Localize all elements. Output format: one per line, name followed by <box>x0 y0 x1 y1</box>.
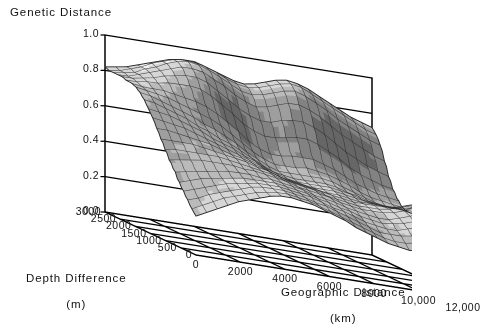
depth-axis-title: Depth Difference (m) <box>4 259 132 323</box>
geographic-axis-tick-12,000: 12,000 <box>443 302 483 314</box>
geographic-axis-tick-8000: 8000 <box>354 288 394 300</box>
depth-axis-title-line1: Depth Difference <box>26 272 127 284</box>
z-axis-tick-0.8: 0.8 <box>59 63 99 75</box>
depth-axis-title-line2: (m) <box>66 298 86 310</box>
geographic-axis-tick-2000: 2000 <box>221 266 261 278</box>
geographic-axis-tick-6000: 6000 <box>310 281 350 293</box>
z-axis-tick-1.0: 1.0 <box>59 28 99 40</box>
z-axis-tick-0.6: 0.6 <box>59 99 99 111</box>
geographic-axis-tick-0: 0 <box>176 259 216 271</box>
z-axis-tick-0.4: 0.4 <box>59 134 99 146</box>
z-axis-title: Genetic Distance <box>10 6 112 19</box>
geographic-axis-title-line2: (km) <box>330 312 357 324</box>
geographic-axis-tick-4000: 4000 <box>265 273 305 285</box>
geographic-axis-tick-10,000: 10,000 <box>399 295 439 307</box>
z-axis-tick-0.2: 0.2 <box>59 170 99 182</box>
